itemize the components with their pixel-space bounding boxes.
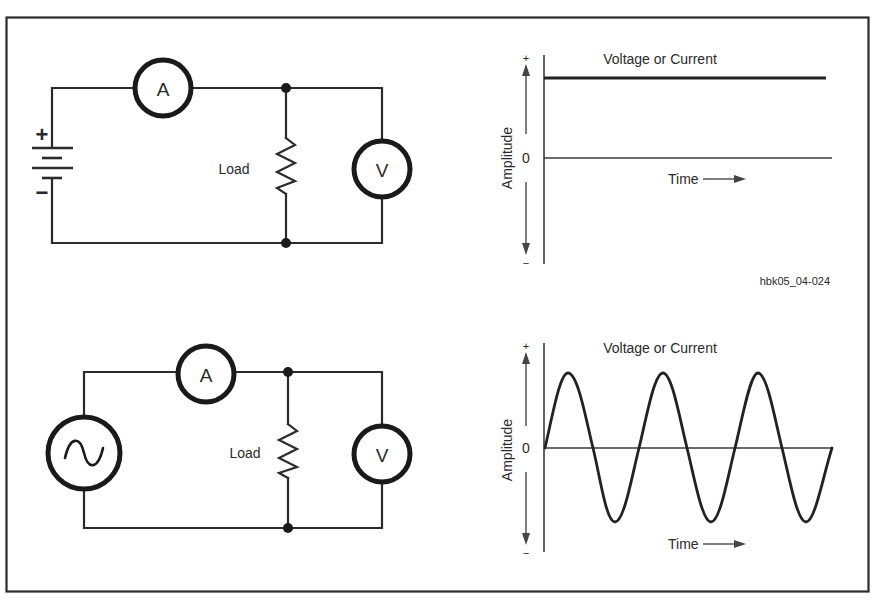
- dc-graph: Voltage or Current + 0 − Amplitude Time …: [499, 51, 832, 287]
- dc-junction-top: [281, 83, 291, 93]
- arrow-down-icon: [522, 243, 530, 255]
- ac-graph-y-plus: +: [523, 340, 529, 352]
- ac-ammeter: A: [178, 346, 234, 402]
- dc-voltmeter: V: [354, 141, 410, 197]
- ac-graph-y-zero: 0: [522, 440, 530, 456]
- dc-junction-bottom: [281, 238, 291, 248]
- arrow-right-icon: [734, 540, 746, 548]
- ac-graph-y-minus: −: [523, 547, 529, 559]
- ac-graph-y-label: Amplitude: [499, 419, 515, 481]
- ac-junction-top: [283, 367, 293, 377]
- battery-icon: [32, 148, 73, 178]
- ac-wire-top-left: [84, 372, 176, 416]
- battery-minus-label: −: [36, 180, 49, 205]
- ac-wire-right-bottom: [84, 484, 382, 528]
- dc-graph-title: Voltage or Current: [603, 51, 717, 67]
- figure-id-label: hbk05_04-024: [760, 275, 830, 287]
- ac-voltmeter-label: V: [376, 445, 389, 466]
- dc-wire-top-left: [52, 88, 134, 148]
- dc-ammeter-label: A: [157, 79, 170, 100]
- arrow-up-icon: [522, 64, 530, 76]
- arrow-down-icon: [522, 533, 530, 545]
- dc-circuit: + − A Load V: [32, 60, 410, 248]
- ac-wire-top-right: [236, 372, 382, 424]
- ac-junction-bottom: [283, 523, 293, 533]
- arrow-right-icon: [734, 175, 746, 183]
- resistor-icon: [277, 138, 295, 194]
- figure-frame: [7, 18, 869, 592]
- ac-graph-x-label: Time: [668, 536, 699, 552]
- dc-graph-y-label: Amplitude: [499, 127, 515, 189]
- dc-load-label: Load: [218, 161, 249, 177]
- dc-voltmeter-label: V: [376, 160, 389, 181]
- ac-circuit: A Load V: [48, 346, 410, 533]
- ac-ammeter-label: A: [200, 365, 213, 386]
- resistor-icon: [279, 424, 297, 478]
- dc-graph-y-minus: −: [523, 257, 529, 269]
- ac-graph-title: Voltage or Current: [603, 340, 717, 356]
- ac-load-label: Load: [229, 445, 260, 461]
- dc-wire-right-bottom: [52, 178, 382, 243]
- ac-source: [48, 417, 120, 489]
- figure: + − A Load V A: [0, 0, 876, 601]
- battery-plus-label: +: [36, 122, 49, 147]
- ac-voltmeter: V: [354, 426, 410, 482]
- arrow-up-icon: [522, 352, 530, 364]
- dc-graph-x-label: Time: [668, 171, 699, 187]
- ac-graph: Voltage or Current + 0 − Amplitude Time: [499, 340, 832, 559]
- dc-graph-y-zero: 0: [522, 150, 530, 166]
- dc-graph-y-plus: +: [523, 52, 529, 64]
- dc-ammeter: A: [135, 60, 191, 116]
